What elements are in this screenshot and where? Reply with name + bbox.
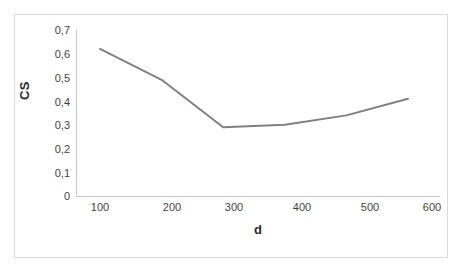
chart-figure: 0,7 0,6 0,5 0,4 0,3 0,2 0,1 0 CS 100 200… (0, 0, 467, 275)
data-series-line (100, 49, 408, 127)
x-tick-label: 300 (204, 201, 264, 213)
x-tick-label: 200 (142, 201, 202, 213)
x-tick-label: 600 (402, 201, 462, 213)
x-axis-title: d (76, 222, 440, 237)
x-tick-label: 500 (340, 201, 400, 213)
x-axis-tick-labels: 100 200 300 400 500 600 (76, 201, 440, 217)
x-tick-label: 100 (70, 201, 130, 213)
x-tick-label: 400 (272, 201, 332, 213)
